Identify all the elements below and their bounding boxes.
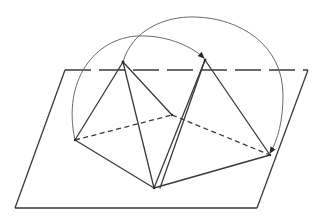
edge-bottom-right xyxy=(154,155,270,188)
vertex-bottom xyxy=(153,187,155,189)
vertex-right xyxy=(269,154,271,156)
vertex-left xyxy=(74,139,76,141)
edge-center-right xyxy=(172,115,270,155)
vertices xyxy=(74,59,271,190)
edge-apexright-right xyxy=(205,60,270,155)
solid-edges xyxy=(75,60,270,188)
vertex-center xyxy=(171,114,173,116)
edge-left-bottom xyxy=(75,140,154,188)
edge-apexright-bottom xyxy=(154,60,205,188)
arc-apexleft-to-right xyxy=(123,17,283,153)
edge-apexleft-left xyxy=(75,62,123,140)
pyramid-folding-diagram xyxy=(0,0,328,221)
diagram-canvas xyxy=(0,0,328,221)
base-plane xyxy=(15,70,308,208)
vertex-apex-right xyxy=(204,59,207,62)
edge-apexleft-bottom xyxy=(123,62,154,188)
plane-left-edge xyxy=(15,70,65,208)
vertex-apex-left xyxy=(122,61,125,64)
hidden-edges xyxy=(75,115,270,155)
edge-apexright-center xyxy=(160,60,205,188)
edge-left-center xyxy=(75,115,172,140)
